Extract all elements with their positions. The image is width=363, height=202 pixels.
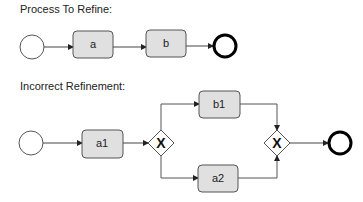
sequence-flow bbox=[161, 104, 199, 130]
gateway-x-icon: X bbox=[156, 135, 166, 151]
end-event[interactable] bbox=[214, 35, 236, 57]
task-a[interactable]: a bbox=[73, 31, 113, 58]
task-label: a2 bbox=[212, 172, 224, 184]
task-label: b1 bbox=[213, 98, 225, 110]
task-a2[interactable]: a2 bbox=[198, 165, 238, 192]
sequence-flow bbox=[238, 156, 277, 178]
start-event[interactable] bbox=[20, 35, 44, 59]
task-a1[interactable]: a1 bbox=[82, 130, 123, 158]
sequence-flow bbox=[161, 156, 198, 178]
end-event[interactable] bbox=[329, 132, 351, 154]
task-label: a1 bbox=[96, 137, 108, 149]
task-b1[interactable]: b1 bbox=[199, 91, 240, 118]
start-event[interactable] bbox=[19, 131, 43, 155]
gateway-x-icon: X bbox=[272, 135, 282, 151]
sequence-flow bbox=[240, 104, 277, 130]
task-b[interactable]: b bbox=[146, 30, 186, 57]
task-label: b bbox=[163, 37, 169, 49]
exclusive-gateway-split[interactable]: X bbox=[148, 130, 174, 156]
exclusive-gateway-join[interactable]: X bbox=[264, 130, 290, 156]
refinement-diagram: a1 X b1 a2 X bbox=[19, 91, 351, 192]
task-label: a bbox=[90, 38, 97, 50]
process-diagram: a b bbox=[20, 30, 236, 59]
bpmn-diagram: a b a1 X b1 bbox=[0, 0, 363, 202]
